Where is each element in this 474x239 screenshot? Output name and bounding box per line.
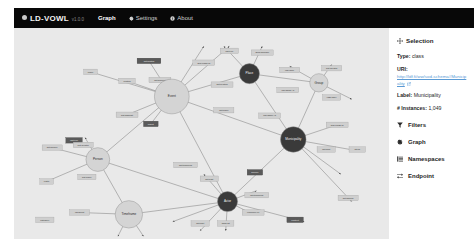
svg-text:Actor: Actor [224,199,231,203]
graph-edge-label[interactable]: rdf:value [280,67,300,72]
selection-label-value: Municipality [414,92,441,98]
graph-edge-label[interactable]: category [36,217,54,222]
graph-edge-label[interactable]: resource-of [242,210,264,215]
svg-text:skos:alt: skos:alt [222,222,230,225]
svg-text:agent: agent [148,123,154,126]
graph-edge-label[interactable]: dct:part [191,221,209,226]
nav-link-graph[interactable]: Graph [98,15,116,21]
graph-edge-label[interactable]: owl:sameAs [277,87,299,92]
nav-link-about[interactable]: About [170,15,193,21]
graph-edge-label[interactable]: literal [349,147,365,152]
svg-text:category: category [40,219,50,222]
sidebar-item-graph-label: Graph [408,139,426,145]
svg-text:owl:sameAs: owl:sameAs [263,114,277,117]
selection-type-label: Type: [397,53,410,59]
graph-edge-label[interactable]: dct:creator [322,65,342,70]
graph-edge-label[interactable]: context [287,217,303,222]
graph-edge-label[interactable]: dct:place [214,107,234,112]
svg-text:Group: Group [315,81,324,85]
svg-text:rdf:value: rdf:value [285,69,295,72]
selection-uri-field: URI: http://ldf.fi/ww/sod-schema#Municip… [397,66,468,87]
svg-text:rdfs:label: rdfs:label [327,96,337,99]
svg-text:dct:place: dct:place [82,176,92,179]
sidebar-item-filters[interactable]: Filters [397,122,468,128]
graph-edge-label[interactable]: entity [40,179,54,184]
graph-canvas[interactable]: dct:spatialsub-class-ofrdf:typeskos:broa… [14,28,389,239]
svg-text:dct:hasPart: dct:hasPart [121,114,133,117]
nav-link-settings[interactable]: Settings [129,15,158,21]
graph-edge-label[interactable]: dct:issued [338,195,358,200]
graph-edge-label[interactable]: source [247,170,263,175]
selection-type-value: class [412,53,424,59]
graph-edge-label[interactable]: dct:temporal [245,192,269,197]
svg-text:rdf:about: rdf:about [75,211,85,214]
sidebar-item-namespaces-label: Namespaces [408,156,445,162]
svg-text:dct:temporal: dct:temporal [179,164,192,167]
graph-node-actor[interactable]: Actor [217,192,237,212]
graph-edge-label[interactable]: place [84,69,98,74]
selection-type-field: Type: class [397,53,468,60]
svg-text:dct:source: dct:source [47,146,59,149]
sidebar-item-namespaces[interactable]: Namespaces [397,156,468,162]
svg-text:dct:related: dct:related [217,83,229,86]
sidebar-item-graph[interactable]: Graph [397,139,468,145]
graph-edge-label[interactable]: dct:spatial [137,58,161,63]
graph-edge-label[interactable]: dct:place [78,174,96,179]
selection-instances-value: 1,049 [428,105,441,111]
graph-edge-label[interactable]: skos:alt [217,221,233,226]
exchange-icon [397,173,404,179]
graph-edge-label[interactable]: skos:broader [251,50,273,55]
svg-text:rdf:type: rdf:type [70,139,79,142]
brand-name: LD-VOWL [30,14,69,23]
brand[interactable]: LD-VOWL v1.0.0 [22,14,84,23]
svg-text:sub-class-of: sub-class-of [197,62,210,65]
svg-text:dct:place: dct:place [219,109,229,112]
selection-instances-field: # Instances: 1,049 [397,105,468,112]
svg-text:owl:sameAs: owl:sameAs [281,89,295,92]
sidebar-item-endpoint[interactable]: Endpoint [397,173,468,179]
svg-text:related: related [123,80,131,83]
svg-text:Event: Event [168,94,176,98]
sidebar: Selection Type: class URI: http://ldf.fi… [389,28,474,239]
svg-text:entity: entity [44,180,50,183]
graph-edge [129,202,228,215]
graph-edge-label[interactable]: rdf:about [70,210,90,215]
svg-text:context: context [291,219,299,222]
graph-edge-label[interactable]: rdf:type [220,48,238,53]
external-link-icon[interactable] [407,82,411,86]
graph-node-place[interactable]: Place [239,64,259,84]
svg-text:dct:temporal: dct:temporal [250,194,263,197]
graph-edge-label[interactable]: related [119,78,135,83]
graph-edge-label[interactable]: sub-class-of [326,122,348,127]
graph-edge-label[interactable]: sub-class-of [193,60,215,65]
gear-icon [397,139,404,145]
graph-edge-label[interactable]: dct:part [317,147,335,152]
svg-text:dct:part: dct:part [196,222,204,225]
graph-node-person[interactable]: Person [86,148,110,172]
graph-node-timeframe[interactable]: Timeframe [115,201,142,228]
graph-edge-label[interactable]: dct:temporal [174,162,198,167]
graph-edge-label[interactable]: rdfs:label [323,95,341,100]
graph-edge-label[interactable]: dct:creator [73,142,93,147]
navbar: LD-VOWL v1.0.0 Graph Settings [14,8,474,28]
gear-icon [129,16,134,21]
move-arrows-icon [397,38,403,44]
sidebar-menu: Filters Graph [397,122,468,179]
graph-edge-label[interactable]: dct:part [200,176,218,181]
svg-text:literal: literal [354,148,360,151]
graph-edge-label[interactable]: owl:sameAs [259,113,281,118]
svg-text:dct:creator: dct:creator [326,67,337,70]
graph-node-group[interactable]: Group [310,74,328,92]
sidebar-item-endpoint-label: Endpoint [408,173,434,179]
graph-edge-label[interactable]: dct:related [211,82,233,87]
graph-edge-label[interactable]: dct:source [42,145,62,150]
svg-text:skos:broader: skos:broader [255,51,269,54]
svg-text:dct:part: dct:part [205,178,213,181]
graph-edge-label[interactable]: agent [143,121,158,126]
circle-logo-icon [22,15,27,20]
graph-edge-label[interactable]: dct:hasPart [116,112,138,117]
graph-svg[interactable]: dct:spatialsub-class-ofrdf:typeskos:broa… [14,28,389,239]
graph-node-event[interactable]: Event [154,79,189,114]
graph-node-municipality[interactable]: Municipality [281,127,307,153]
nav-link-about-label: About [177,15,193,21]
